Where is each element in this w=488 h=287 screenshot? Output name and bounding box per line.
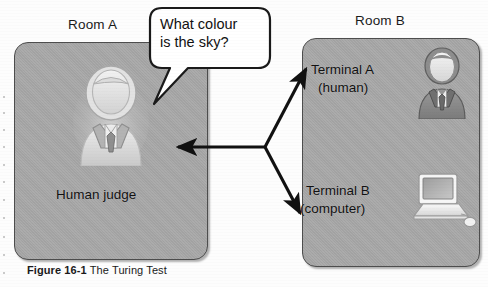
speech-bubble: What colour is the sky?	[150, 8, 269, 66]
figure-caption-title: The Turing Test	[87, 264, 167, 276]
terminal-a-sublabel: (human)	[318, 80, 368, 95]
scan-edge-specks	[2, 96, 10, 284]
terminal-b-sublabel: (computer)	[300, 201, 365, 216]
speech-line-1: What colour	[160, 15, 264, 33]
terminal-b-label: Terminal B	[306, 183, 370, 198]
computer-terminal-laptop-icon	[411, 172, 477, 228]
human-judge-label: Human judge	[56, 187, 136, 202]
speech-bubble-text: What colour is the sky?	[160, 15, 264, 51]
arrow-to-terminal-b	[265, 147, 300, 213]
figure-caption: Figure 16-1 The Turing Test	[27, 264, 167, 276]
judge-person-icon	[73, 62, 149, 166]
terminal-a-label: Terminal A	[311, 62, 374, 77]
figure-caption-number: Figure 16-1	[27, 264, 87, 276]
speech-line-2: is the sky?	[160, 33, 264, 51]
human-terminal-person-icon	[416, 47, 468, 119]
room-a-label: Room A	[68, 17, 117, 32]
turing-test-figure: Room A Room B	[0, 0, 488, 287]
room-b-label: Room B	[355, 13, 405, 28]
